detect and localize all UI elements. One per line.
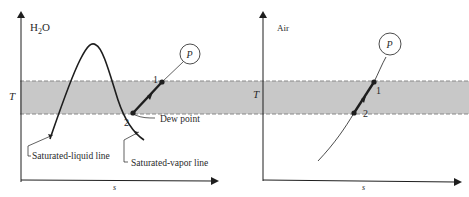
left-y-axis-label: T bbox=[9, 90, 16, 102]
point-2-h2o bbox=[130, 110, 135, 115]
point-1-air bbox=[371, 79, 376, 84]
left-x-axis-label: s bbox=[113, 183, 116, 192]
left-substance-label: H2O bbox=[30, 21, 50, 36]
point-1-label-air: 1 bbox=[376, 85, 381, 96]
right-substance-label: Air bbox=[277, 23, 289, 33]
ts-diagram-figure: H2O T s P 1 2 Dew point Saturated-liquid… bbox=[0, 0, 469, 197]
saturated-vapor-label: Saturated-vapor line bbox=[131, 158, 208, 168]
right-y-axis-label: T bbox=[253, 88, 260, 100]
pressure-label-air: P bbox=[386, 39, 393, 50]
right-y-axis-arrow-icon bbox=[259, 11, 267, 18]
point-2-label-h2o: 2 bbox=[124, 117, 129, 128]
left-x-axis bbox=[21, 180, 212, 181]
right-x-axis-label: s bbox=[362, 183, 365, 192]
point-2-air bbox=[351, 110, 356, 115]
dew-point-leader bbox=[135, 115, 155, 118]
right-x-axis-arrow-icon bbox=[454, 178, 462, 186]
dew-point-label: Dew point bbox=[160, 114, 200, 124]
point-2-label-air: 2 bbox=[363, 108, 368, 119]
point-1-label-h2o: 1 bbox=[153, 74, 158, 85]
temperature-band bbox=[20, 81, 469, 114]
saturated-liquid-label: Saturated-liquid line bbox=[32, 151, 110, 161]
pressure-leader-h2o bbox=[162, 62, 183, 82]
left-x-axis-arrow-icon bbox=[211, 177, 219, 185]
left-y-axis-arrow-icon bbox=[17, 11, 25, 18]
pressure-label-h2o: P bbox=[186, 49, 193, 60]
right-x-axis bbox=[263, 180, 455, 182]
